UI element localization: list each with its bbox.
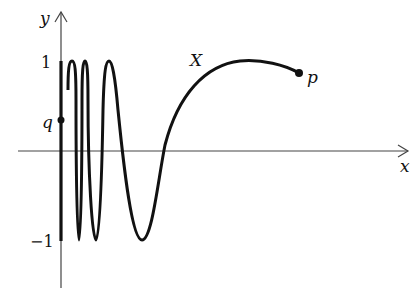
y-tick-minus-1: −1 xyxy=(30,232,54,251)
y-axis-label: y xyxy=(39,8,50,28)
point-p-marker xyxy=(295,69,303,77)
x-axis-label: x xyxy=(400,156,410,176)
point-q-label: q xyxy=(42,112,53,132)
curve-label: X xyxy=(188,50,203,70)
y-tick-1: 1 xyxy=(41,53,51,72)
curve-x xyxy=(68,61,299,240)
diagram-canvas: y x 1 −1 X p q xyxy=(0,0,420,298)
point-p-label: p xyxy=(307,67,318,87)
point-q-marker xyxy=(58,117,65,124)
